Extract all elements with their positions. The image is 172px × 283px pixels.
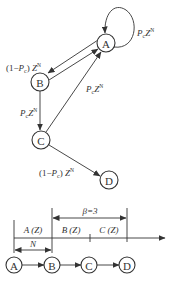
svg-text:C: C	[85, 260, 92, 272]
label-b-to-c: PcZN	[19, 107, 37, 119]
chain-node-b: B	[44, 257, 60, 273]
n-label: N	[29, 239, 37, 249]
edge-b-to-a	[49, 49, 98, 80]
svg-text:D: D	[123, 260, 131, 272]
node-d: D	[100, 171, 118, 189]
svg-text:D: D	[105, 175, 113, 187]
node-a: A	[97, 34, 115, 52]
chain-node-c: C	[81, 257, 97, 273]
svg-text:A: A	[10, 260, 18, 272]
node-c: C	[32, 131, 50, 149]
label-a-self-loop: PcZN	[136, 27, 154, 39]
chain-node-d: D	[119, 257, 135, 273]
beta-label: β=3	[81, 206, 98, 216]
label-c-to-d: (1−Pc) ZN	[39, 167, 74, 179]
svg-text:C: C	[37, 135, 44, 147]
svg-text:A: A	[102, 38, 110, 50]
label-c-to-a: PcZN	[85, 83, 103, 95]
label-a-to-b: (1−Pc) ZN	[6, 62, 41, 74]
segment-c-label: C (Z)	[99, 225, 118, 235]
svg-text:B: B	[48, 260, 55, 272]
node-b: B	[31, 73, 49, 91]
svg-text:B: B	[36, 77, 43, 89]
segment-a-label: A (Z)	[23, 225, 43, 235]
diagram-canvas: A B C D PcZN (1−Pc) ZN PcZN PcZN (1−Pc) …	[0, 0, 172, 283]
segment-b-label: B (Z)	[62, 225, 81, 235]
chain-node-a: A	[6, 257, 22, 273]
